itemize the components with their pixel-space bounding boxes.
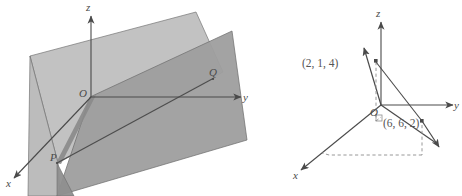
point-Q-label: Q [209, 67, 217, 78]
right-x-axis-label: x [293, 170, 298, 181]
vector-6-6-2-arrow [422, 121, 439, 147]
left-z-axis-label: z [86, 2, 90, 13]
right-diagram-canvas [250, 0, 462, 196]
point-Q-marker [212, 78, 214, 80]
vector-6-6-2-label: (6, 6, 2) [383, 118, 419, 130]
dash-6-6-2-to-x-axis [322, 153, 329, 155]
figure-root: z y x O P Q [0, 0, 462, 196]
right-z-axis-label: z [376, 8, 380, 19]
left-diagram-canvas [0, 0, 250, 196]
right-origin-label: O [370, 107, 378, 118]
x-axis [301, 105, 381, 170]
point-P-label: P [50, 152, 57, 163]
vector-2-1-4 [364, 48, 381, 105]
vector-2-1-4-label: (2, 1, 4) [302, 58, 338, 70]
left-y-axis-label: y [243, 92, 248, 103]
right-y-axis-label: y [454, 100, 459, 111]
left-origin-label: O [79, 88, 87, 99]
two-intersecting-planes-diagram: z y x O P Q [0, 0, 250, 196]
vector-6-6-2-upper-segment [376, 62, 422, 121]
two-vectors-diagram: z y x O (2, 1, 4) (6, 6, 2) [250, 0, 462, 196]
left-x-axis-label: x [6, 178, 11, 189]
